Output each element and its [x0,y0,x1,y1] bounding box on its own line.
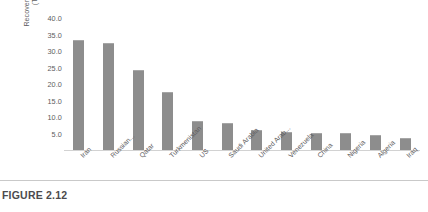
caption-divider [0,180,428,181]
x-label-slot: Qatar [123,152,153,176]
x-label-slot: United Arab... [242,152,272,176]
figure-caption: FIGURE 2.12 [2,189,67,201]
bar-slot [123,0,153,150]
bar-slot [212,0,242,150]
bar [73,40,84,150]
bar [370,135,381,150]
plot-area [64,0,420,151]
bar [340,133,351,150]
x-label-slot: Nigeria [331,152,361,176]
y-axis-tick: 25.0 [36,65,62,72]
x-label-slot: Iran [64,152,94,176]
bar-slot [331,0,361,150]
bar-slot [361,0,391,150]
bar [222,123,233,150]
y-axis-tick: 40.0 [36,15,62,22]
bar-slot [301,0,331,150]
y-axis-tick: 20.0 [36,81,62,88]
y-axis-tick-labels: 40.035.030.025.020.015.010.05.0 [36,0,62,176]
figure-container: Recoverable Natural Gas Reserves (Trilli… [0,0,428,212]
y-axis-tick: 5.0 [36,131,62,138]
x-axis-category-labels: IranRussian...QatarTurkmenistanUSSaudi A… [64,152,420,176]
bar [103,43,114,150]
x-label-slot: Saudi Arabia [212,152,242,176]
y-axis-tick: 30.0 [36,48,62,55]
x-label-slot: Russian... [94,152,124,176]
x-label-slot: China [301,152,331,176]
y-axis-tick: 35.0 [36,32,62,39]
x-label-slot: Venezuela [272,152,302,176]
x-label-slot: Turkmenistan [153,152,183,176]
x-label-slot: US [183,152,213,176]
bar-chart: Recoverable Natural Gas Reserves (Trilli… [0,0,428,176]
bar-slot [94,0,124,150]
bar [162,92,173,150]
bar-slot [390,0,420,150]
x-label-slot: Iraq [390,152,420,176]
x-label-slot: Algeria [361,152,391,176]
bar-series [64,0,420,150]
bar-slot [153,0,183,150]
y-axis-tick: 10.0 [36,114,62,121]
bar-slot [64,0,94,150]
y-axis-tick: 15.0 [36,98,62,105]
